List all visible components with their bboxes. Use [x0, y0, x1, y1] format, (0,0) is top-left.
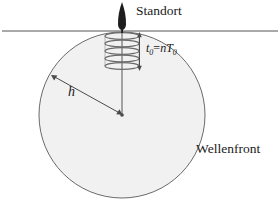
wavefront-label: Wellenfront: [196, 142, 260, 156]
station-label: Standort: [136, 4, 182, 18]
wavefront-diagram: [0, 0, 280, 202]
location-spike-icon: [118, 2, 126, 33]
diagram-canvas: Standort Wellenfront h t0=nT0: [0, 0, 280, 202]
formula-T-sub: 0: [173, 48, 177, 57]
formula-T: T: [166, 41, 173, 55]
duration-formula: t0=nT0: [146, 42, 177, 57]
height-label: h: [68, 85, 75, 99]
